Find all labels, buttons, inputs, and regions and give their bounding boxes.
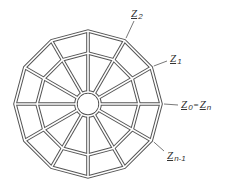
label-zn-subscript: n	[207, 103, 211, 112]
leader-z1	[154, 61, 167, 66]
label-zn-symbol: Z	[200, 98, 206, 110]
hub-interior	[78, 94, 98, 114]
label-zn-1-symbol: Z	[167, 149, 173, 161]
leader-zn-1	[154, 142, 164, 151]
label-zn-1-subscript: n-1	[174, 154, 186, 163]
label-z1: Z1	[170, 53, 182, 66]
leader-z0	[164, 104, 178, 105]
label-z0-symbol: Z	[181, 98, 187, 110]
leader-z2	[126, 21, 134, 38]
label-z2: Z2	[131, 8, 143, 21]
label-z0-subscript: 0	[188, 103, 192, 112]
label-z1-symbol: Z	[170, 52, 176, 64]
label-z2-symbol: Z	[131, 7, 137, 19]
label-equals-sign: =	[194, 100, 199, 110]
frame-structure	[15, 31, 161, 177]
polygon-frame-diagram	[0, 0, 227, 188]
label-z1-subscript: 1	[177, 57, 181, 66]
label-z2-subscript: 2	[138, 12, 142, 21]
label-zn-1: Zn-1	[167, 150, 186, 163]
label-z0-equals-zn: Z0=Zn	[181, 99, 211, 112]
